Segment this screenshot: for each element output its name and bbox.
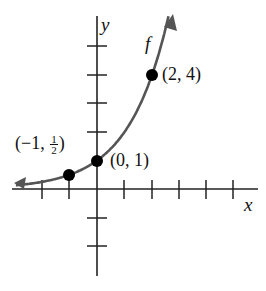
point-2-4: [146, 69, 158, 81]
left-arrow-icon: [14, 177, 26, 189]
point-0-1: [91, 155, 103, 167]
function-label: f: [145, 33, 150, 55]
point-label-0-1: (0, 1): [110, 150, 149, 171]
y-axis-label: y: [101, 14, 109, 36]
fraction-one-half: 12: [50, 134, 58, 155]
point-label-text: (−1,: [15, 133, 49, 153]
x-axis-label: x: [244, 194, 252, 216]
point-neg1-half: [63, 169, 75, 181]
graph-figure: y x f (2, 4) (0, 1) (−1, 12): [0, 0, 266, 291]
point-label-2-4: (2, 4): [162, 64, 201, 85]
point-label-neg1-half: (−1, 12): [15, 133, 65, 155]
